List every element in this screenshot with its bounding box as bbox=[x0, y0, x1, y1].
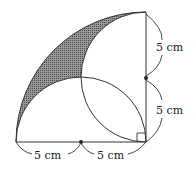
geometry-diagram: 5 cm 5 cm 5 cm 5 cm bbox=[0, 0, 196, 173]
label-right-upper: 5 cm bbox=[156, 41, 184, 54]
label-bottom-right: 5 cm bbox=[97, 149, 125, 162]
label-right-lower: 5 cm bbox=[156, 104, 184, 117]
label-bottom-left: 5 cm bbox=[34, 149, 62, 162]
shaded-region bbox=[0, 0, 196, 173]
side-midpoint-dot bbox=[144, 76, 148, 80]
